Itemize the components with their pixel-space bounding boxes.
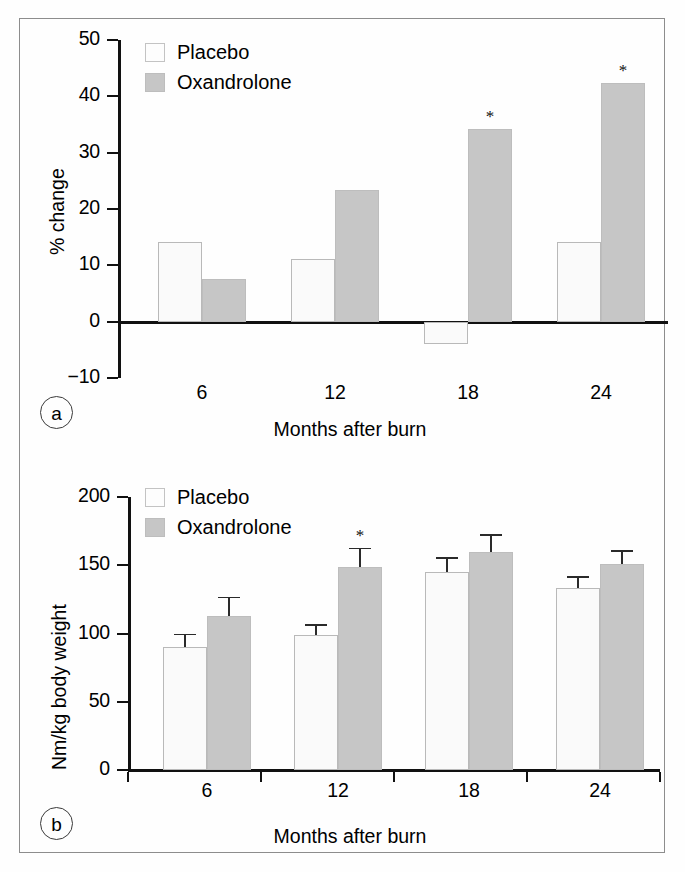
plot-a-y-axis xyxy=(118,40,121,378)
plot-b-error-bar-cap xyxy=(611,550,633,552)
plot-a-x-tick-label: 6 xyxy=(162,381,242,404)
plot-b-error-bar-stem xyxy=(228,597,230,616)
plot-a-y-tick xyxy=(107,95,118,97)
plot-a-bar-placebo-6mo xyxy=(158,242,202,322)
plot-b-y-tick xyxy=(117,701,128,703)
plot-a-x-tick-label: 18 xyxy=(428,381,508,404)
panel-b: Nm/kg body weight Months after burn b Pl… xyxy=(0,440,685,872)
plot-b-error-bar-cap xyxy=(305,624,327,626)
plot-b-y-tick-label: 200 xyxy=(28,484,110,507)
plot-b-error-bar-cap xyxy=(349,548,371,550)
plot-b-x-tick-label: 6 xyxy=(167,779,247,802)
plot-b-x-tick xyxy=(127,772,129,782)
plot-a-y-tick xyxy=(107,321,118,323)
plot-b-x-tick xyxy=(260,772,262,782)
plot-a-y-tick xyxy=(107,208,118,210)
plot-b-error-bar-cap xyxy=(436,557,458,559)
plot-b-bar-placebo-24mo xyxy=(556,588,600,770)
plot-a-bar-placebo-12mo xyxy=(291,259,335,322)
plot-a-y-tick xyxy=(107,152,118,154)
plot-b-y-tick-label: 50 xyxy=(28,689,110,712)
plot-a-bar-oxandrolone-24mo xyxy=(601,83,645,321)
figure-root: % change Months after burn a Placebo Oxa… xyxy=(0,0,685,872)
plot-a-y-tick-label: 40 xyxy=(18,83,100,106)
plot-a-bar-oxandrolone-12mo xyxy=(335,190,379,321)
plot-b-y-tick-label: 150 xyxy=(28,552,110,575)
plot-a-bar-oxandrolone-18mo xyxy=(468,129,512,322)
plot-b-y-tick xyxy=(117,633,128,635)
panel-a: % change Months after burn a Placebo Oxa… xyxy=(0,0,685,440)
plot-b-bar-oxandrolone-24mo xyxy=(600,564,644,770)
plot-b-error-bar-cap xyxy=(174,634,196,636)
plot-b-error-bar-stem xyxy=(490,534,492,552)
plot-b-x-tick-label: 12 xyxy=(298,779,378,802)
plot-b-error-bar-cap xyxy=(480,534,502,536)
plot-a-y-tick-label: 10 xyxy=(18,252,100,275)
panel-b-plot-area: 0501001502006*121824 xyxy=(0,440,685,872)
plot-a-significance-marker: * xyxy=(614,62,632,79)
plot-b-x-tick-label: 24 xyxy=(560,779,640,802)
plot-b-bar-oxandrolone-18mo xyxy=(469,552,513,770)
plot-b-x-tick xyxy=(659,772,661,782)
plot-a-significance-marker: * xyxy=(481,108,499,125)
plot-a-bar-placebo-24mo xyxy=(557,242,601,322)
plot-b-error-bar-stem xyxy=(577,576,579,588)
plot-b-y-tick xyxy=(117,496,128,498)
plot-b-y-axis xyxy=(128,497,131,770)
plot-b-bar-placebo-6mo xyxy=(163,647,207,770)
plot-a-bar-oxandrolone-6mo xyxy=(202,279,246,321)
plot-a-x-tick-label: 12 xyxy=(295,381,375,404)
plot-a-y-tick-label: 30 xyxy=(18,140,100,163)
plot-b-y-tick xyxy=(117,769,128,771)
plot-b-error-bar-cap xyxy=(218,597,240,599)
plot-a-bar-placebo-18mo xyxy=(424,322,468,345)
plot-b-bar-oxandrolone-6mo xyxy=(207,616,251,770)
plot-b-error-bar-stem xyxy=(184,634,186,648)
plot-b-y-tick-label: 100 xyxy=(28,621,110,644)
plot-b-bar-placebo-12mo xyxy=(294,635,338,770)
plot-a-x-tick-label: 24 xyxy=(561,381,641,404)
plot-b-significance-marker: * xyxy=(351,527,369,544)
plot-b-y-tick xyxy=(117,564,128,566)
plot-b-y-tick-label: 0 xyxy=(28,757,110,780)
plot-b-error-bar-cap xyxy=(567,576,589,578)
plot-a-y-tick xyxy=(107,377,118,379)
plot-a-y-tick xyxy=(107,264,118,266)
plot-a-y-tick-label: 20 xyxy=(18,196,100,219)
plot-a-y-tick-label: 0 xyxy=(18,309,100,332)
plot-b-bar-placebo-18mo xyxy=(425,572,469,770)
plot-a-y-tick xyxy=(107,39,118,41)
plot-b-error-bar-stem xyxy=(621,550,623,564)
plot-b-x-tick xyxy=(393,772,395,782)
plot-b-x-tick-label: 18 xyxy=(429,779,509,802)
plot-b-error-bar-stem xyxy=(359,548,361,567)
plot-b-error-bar-stem xyxy=(446,557,448,572)
panel-a-plot-area: −1001020304050612*18*24 xyxy=(0,0,685,440)
plot-a-y-tick-label: 50 xyxy=(18,27,100,50)
plot-a-y-tick-label: −10 xyxy=(18,365,100,388)
plot-b-x-tick xyxy=(526,772,528,782)
plot-b-bar-oxandrolone-12mo xyxy=(338,567,382,770)
